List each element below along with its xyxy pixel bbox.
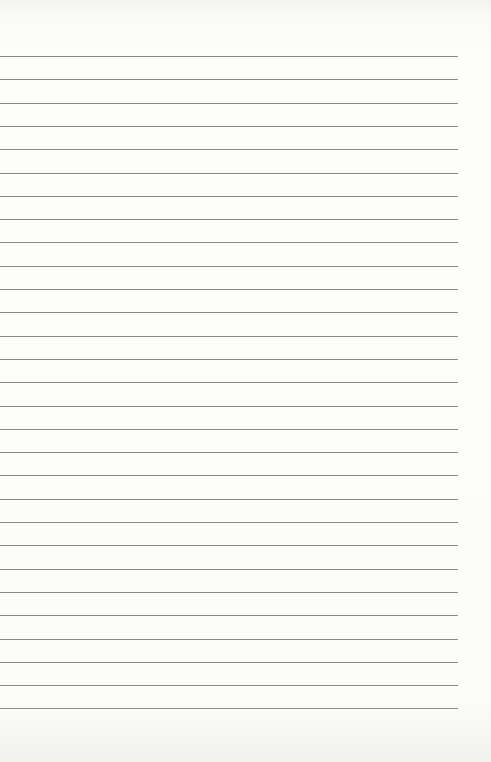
ruled-line [0,242,458,243]
ruled-line [0,545,458,546]
ruled-line [0,382,458,383]
ruled-line [0,103,458,104]
ruled-line [0,499,458,500]
ruled-line [0,429,458,430]
ruled-line [0,219,458,220]
ruled-line [0,359,458,360]
ruled-line [0,569,458,570]
ruled-line [0,56,458,57]
ruled-line [0,475,458,476]
ruled-line [0,149,458,150]
ruled-line [0,266,458,267]
ruled-line [0,196,458,197]
ruled-line [0,289,458,290]
ruled-line [0,406,458,407]
ruled-line [0,79,458,80]
lined-paper-sheet [0,0,491,762]
ruled-line [0,685,458,686]
ruled-line [0,708,458,709]
ruled-line [0,615,458,616]
ruled-line [0,522,458,523]
ruled-line [0,126,458,127]
ruled-line [0,452,458,453]
ruled-line [0,639,458,640]
ruled-line [0,662,458,663]
ruled-line [0,173,458,174]
ruled-line [0,592,458,593]
ruled-line [0,312,458,313]
ruled-line [0,336,458,337]
